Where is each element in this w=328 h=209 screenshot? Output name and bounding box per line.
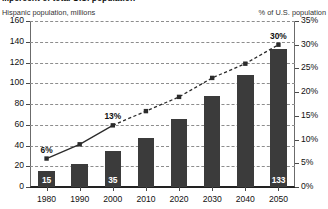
line-marker-2010 <box>144 109 148 113</box>
y-tick-mark-right <box>295 21 299 22</box>
y-tick-mark-left <box>26 187 30 188</box>
y-axis-label-left: 100 <box>10 78 24 87</box>
x-axis-label-2050: 2050 <box>269 194 288 204</box>
line-marker-2020 <box>177 95 181 99</box>
line-marker-2050 <box>276 43 280 47</box>
x-axis-label-2010: 2010 <box>136 194 155 204</box>
x-tick-mark <box>80 187 81 191</box>
y-tick-mark-right <box>295 187 299 188</box>
plot-area: 0204060801001201401600%5%10%15%20%25%30%… <box>30 21 295 187</box>
line-marker-2040 <box>243 61 247 65</box>
x-tick-mark <box>278 187 279 191</box>
y-tick-mark-right <box>295 116 299 117</box>
percent-label-2050: 30% <box>270 32 287 41</box>
y-axis-label-left: 0 <box>19 182 24 191</box>
line-marker-1990 <box>77 142 81 146</box>
projection-line <box>113 45 279 126</box>
y-tick-mark-right <box>295 140 299 141</box>
y-axis-label-right: 15% <box>301 111 318 120</box>
gridline <box>30 187 295 188</box>
chart-container: ...percent of total U.S. population Hisp… <box>0 0 328 209</box>
y-axis-label-left: 40 <box>14 141 24 150</box>
y-axis-label-left: 60 <box>14 120 24 129</box>
y-axis-label-left: 120 <box>10 58 24 67</box>
actual-line <box>47 125 113 158</box>
y-axis-label-left: 20 <box>14 161 24 170</box>
line-marker-1980 <box>44 156 48 160</box>
line-marker-2030 <box>210 76 214 80</box>
y-axis-label-right: 25% <box>301 63 318 72</box>
y-axis-label-left: 160 <box>10 16 24 25</box>
line-marker-2000 <box>111 123 115 127</box>
chart-title: ...percent of total U.S. population <box>2 0 302 3</box>
x-tick-mark <box>179 187 180 191</box>
x-axis-label-2020: 2020 <box>170 194 189 204</box>
y-tick-mark-right <box>295 163 299 164</box>
x-tick-mark <box>146 187 147 191</box>
y-axis-label-right: 20% <box>301 87 318 96</box>
x-axis-label-1990: 1990 <box>70 194 89 204</box>
x-axis-label-1980: 1980 <box>37 194 56 204</box>
percent-label-1980: 6% <box>41 146 53 155</box>
y-axis-label-right: 30% <box>301 40 318 49</box>
x-axis-label-2040: 2040 <box>236 194 255 204</box>
y-tick-mark-right <box>295 45 299 46</box>
y-axis-label-right: 35% <box>301 16 318 25</box>
x-tick-mark <box>212 187 213 191</box>
percent-label-2000: 13% <box>104 112 121 121</box>
x-tick-mark <box>113 187 114 191</box>
y-axis-label-right: 5% <box>301 158 313 167</box>
x-axis-label-2000: 2000 <box>103 194 122 204</box>
y-axis-label-right: 0% <box>301 182 313 191</box>
percent-line-series <box>30 21 295 187</box>
y-axis-label-right: 10% <box>301 135 318 144</box>
y-axis-label-left: 80 <box>14 99 24 108</box>
y-axis-label-left: 140 <box>10 37 24 46</box>
y-tick-mark-right <box>295 68 299 69</box>
y-tick-mark-right <box>295 92 299 93</box>
x-tick-mark <box>245 187 246 191</box>
x-axis-label-2030: 2030 <box>203 194 222 204</box>
x-tick-mark <box>47 187 48 191</box>
